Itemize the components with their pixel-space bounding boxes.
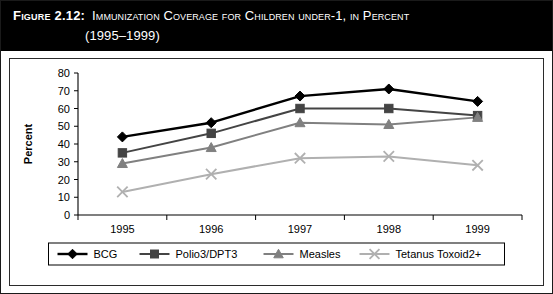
legend-item-label: Tetanus Toxoid2+ [396, 248, 482, 260]
data-point-marker [384, 84, 394, 94]
y-axis-tick-label: 0 [64, 209, 70, 221]
data-point-marker [151, 250, 159, 258]
legend-item-label: BCG [94, 248, 118, 260]
series-line [122, 109, 477, 153]
data-point-marker [385, 104, 393, 112]
legend-item: Polio3/DPT3 [140, 248, 238, 260]
data-point-marker [118, 149, 126, 157]
chart-plot-panel: 0102030405060708019951996199719981999Per… [9, 58, 544, 286]
y-axis-tick-label: 30 [58, 156, 70, 168]
legend-item: Tetanus Toxoid2+ [360, 248, 482, 260]
data-point-marker [295, 91, 305, 101]
figure-title-line-1: Figure 2.12:Immunization Coverage for Ch… [13, 6, 409, 24]
x-axis-tick-label: 1998 [377, 223, 401, 235]
y-axis-tick-label: 20 [58, 174, 70, 186]
y-axis-title: Percent [22, 123, 34, 164]
x-axis-tick-label: 1999 [465, 223, 489, 235]
y-axis-tick-label: 70 [58, 85, 70, 97]
figure-container: Figure 2.12:Immunization Coverage for Ch… [0, 0, 553, 294]
x-axis-tick-label: 1997 [288, 223, 312, 235]
figure-number-label: Figure 2.12: [13, 8, 85, 23]
x-axis-tick-label: 1995 [110, 223, 134, 235]
y-axis-tick-label: 50 [58, 120, 70, 132]
y-axis-tick-label: 10 [58, 191, 70, 203]
x-axis-tick-label: 1996 [199, 223, 223, 235]
data-point-marker [207, 129, 215, 137]
legend-item-label: Measles [300, 248, 341, 260]
figure-title-banner: Figure 2.12:Immunization Coverage for Ch… [1, 1, 553, 51]
series-line [122, 156, 477, 192]
figure-subtitle-text: (1995–1999) [85, 28, 160, 43]
figure-title-line-2: (1995–1999) [85, 26, 160, 44]
y-axis-tick-label: 80 [58, 67, 70, 79]
data-point-marker [206, 118, 216, 128]
data-point-marker [117, 132, 127, 142]
legend-item-label: Polio3/DPT3 [176, 248, 238, 260]
y-axis-tick-label: 60 [58, 103, 70, 115]
figure-title-text: Immunization Coverage for Children under… [92, 8, 409, 23]
data-point-marker [473, 96, 483, 106]
data-point-marker [296, 104, 304, 112]
y-axis-tick-label: 40 [58, 138, 70, 150]
line-chart: 0102030405060708019951996199719981999Per… [10, 59, 543, 285]
